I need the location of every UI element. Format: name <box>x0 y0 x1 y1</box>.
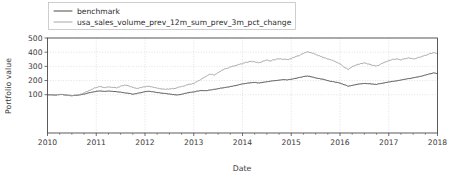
series-lines <box>48 52 438 96</box>
y-tick-label: 100 <box>28 90 43 99</box>
x-tick-label: 2016 <box>330 138 349 147</box>
x-tick-label: 2010 <box>38 138 57 147</box>
y-axis-title: Portfolio value <box>4 58 13 114</box>
x-axis-title: Date <box>233 164 252 173</box>
x-tick-label: 2018 <box>428 138 447 147</box>
x-tick-label: 2013 <box>184 138 203 147</box>
portfolio-value-line-chart: 201020112012201320142015201620172018 100… <box>0 0 455 176</box>
x-tick-label: 2015 <box>282 138 301 147</box>
x-tick-label: 2014 <box>233 138 252 147</box>
x-tick-label: 2017 <box>379 138 398 147</box>
chart-legend: benchmark usa_sales_volume_prev_12m_sum_… <box>49 3 296 30</box>
series-line-strategy <box>48 52 438 96</box>
legend-label-benchmark: benchmark <box>77 7 120 16</box>
y-tick-label: 400 <box>28 48 43 57</box>
series-line-benchmark <box>48 73 438 96</box>
x-tick-label: 2011 <box>87 138 106 147</box>
y-tick-labels: 100200300400500 <box>28 34 43 100</box>
x-tick-label: 2012 <box>135 138 154 147</box>
chart-figure: 201020112012201320142015201620172018 100… <box>0 0 455 176</box>
grid-lines <box>48 38 438 133</box>
y-tick-label: 500 <box>28 34 43 43</box>
x-tick-labels: 201020112012201320142015201620172018 <box>38 138 447 147</box>
y-tick-label: 200 <box>28 76 43 85</box>
legend-label-strategy: usa_sales_volume_prev_12m_sum_prev_3m_pc… <box>77 18 292 27</box>
y-tick-label: 300 <box>28 62 43 71</box>
